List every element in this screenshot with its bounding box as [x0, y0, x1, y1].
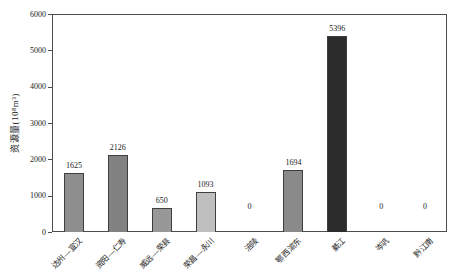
- bar-chart-figure: 资源量(10⁸m³) 0100020003000400050006000 162…: [0, 0, 452, 278]
- bar-value-label: 0: [361, 202, 401, 211]
- y-tick-label: 6000: [12, 10, 46, 19]
- y-tick-label: 1000: [12, 191, 46, 200]
- bar: [108, 155, 128, 232]
- x-tick-label: 荣昌—永川: [181, 236, 216, 271]
- x-tick-label: 綦江: [330, 236, 348, 254]
- y-tick-label: 3000: [12, 119, 46, 128]
- y-tick-label: 5000: [12, 46, 46, 55]
- bar-value-label: 1625: [54, 161, 94, 170]
- y-tick-mark: [48, 159, 52, 160]
- bar: [152, 208, 172, 232]
- x-tick-label: 黔江南: [412, 236, 435, 259]
- y-tick-mark: [48, 50, 52, 51]
- y-tick-mark: [48, 232, 52, 233]
- y-tick-mark: [48, 87, 52, 88]
- bar-value-label: 650: [142, 196, 182, 205]
- bar-value-label: 0: [405, 202, 445, 211]
- bar-value-label: 0: [230, 202, 270, 211]
- y-tick-mark: [48, 14, 52, 15]
- x-tick-label: 岑巩: [374, 236, 392, 254]
- y-tick-label: 2000: [12, 155, 46, 164]
- y-tick-mark: [48, 196, 52, 197]
- bar-value-label: 5396: [317, 24, 357, 33]
- x-tick-label: 涪陵: [242, 236, 260, 254]
- bar: [327, 36, 347, 232]
- x-tick-label: 资阳—仁寿: [94, 236, 129, 271]
- bar: [64, 173, 84, 232]
- bar-value-label: 1093: [186, 180, 226, 189]
- bar: [283, 170, 303, 232]
- y-tick-mark: [48, 123, 52, 124]
- x-tick-label: 达州—宣汉: [50, 236, 85, 271]
- x-tick-label: 鄂西渝东: [275, 236, 304, 265]
- y-tick-label: 4000: [12, 82, 46, 91]
- x-tick-label: 威远—荣县: [137, 236, 172, 271]
- y-tick-label: 0: [12, 228, 46, 237]
- bar-value-label: 2126: [98, 143, 138, 152]
- bar: [196, 192, 216, 232]
- bar-value-label: 1694: [273, 158, 313, 167]
